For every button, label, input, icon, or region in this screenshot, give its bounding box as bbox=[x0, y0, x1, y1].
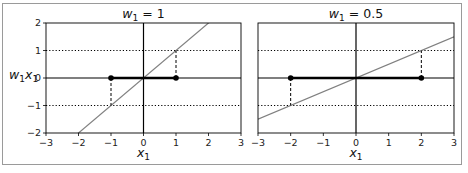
x-tick-label: 1 bbox=[386, 137, 392, 148]
subplot-title: w1 = 0.5 bbox=[329, 6, 383, 23]
x-tick-label: 2 bbox=[205, 137, 211, 148]
plot-area bbox=[258, 23, 454, 133]
subplot-2: −3−2−10123w1 = 0.5x1 bbox=[251, 6, 457, 162]
y-tick-label: 2 bbox=[35, 17, 41, 28]
endpoint-dot bbox=[288, 75, 294, 81]
x-tick-label: −2 bbox=[284, 137, 298, 148]
x-tick-label: −2 bbox=[71, 137, 85, 148]
x-tick-label: −1 bbox=[316, 137, 330, 148]
endpoint-dot bbox=[108, 75, 114, 81]
x-tick-label: −3 bbox=[251, 137, 265, 148]
x-axis-label: x1 bbox=[348, 145, 362, 162]
x-tick-label: 2 bbox=[418, 137, 424, 148]
endpoint-dot bbox=[173, 75, 179, 81]
y-tick-label: 1 bbox=[35, 45, 41, 56]
x-tick-label: 3 bbox=[238, 137, 244, 148]
subplot-1: −3−2−10123−2−1012w1 = 1x1w1x1 bbox=[9, 0, 244, 162]
y-axis-label: w1x1 bbox=[9, 67, 38, 84]
x-tick-label: −3 bbox=[39, 137, 53, 148]
subplot-title: w1 = 1 bbox=[122, 6, 164, 23]
x-tick-label: −1 bbox=[104, 137, 118, 148]
y-tick-label: −1 bbox=[27, 100, 41, 111]
y-tick-label: −2 bbox=[27, 127, 41, 138]
x-tick-label: 1 bbox=[173, 137, 179, 148]
chart-canvas: −3−2−10123−2−1012w1 = 1x1w1x1−3−2−10123w… bbox=[0, 0, 468, 173]
endpoint-dot bbox=[419, 75, 425, 81]
x-tick-label: 3 bbox=[451, 137, 457, 148]
x-axis-label: x1 bbox=[136, 145, 150, 162]
